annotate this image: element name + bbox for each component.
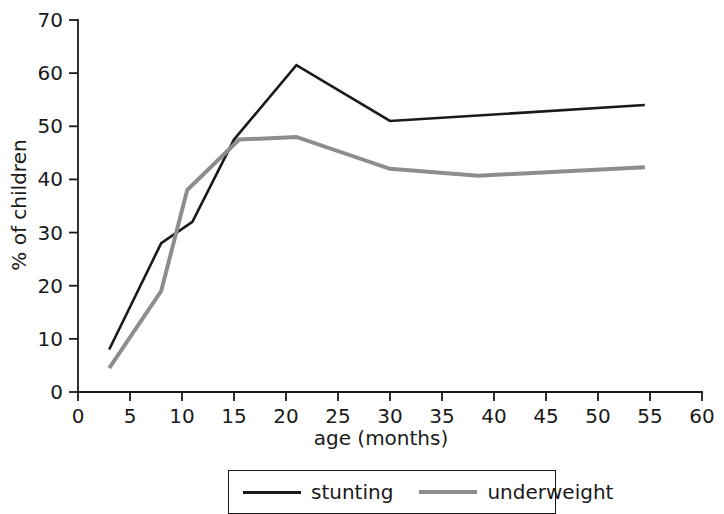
data-series-group (109, 65, 645, 368)
y-axis-tick-label: 0 (50, 380, 63, 404)
legend-label-stunting: stunting (311, 480, 393, 504)
x-axis-tick-label: 60 (689, 404, 714, 428)
x-axis-tick-label: 5 (124, 404, 137, 428)
y-axis-tick-labels: 010203040506070 (38, 8, 63, 404)
x-axis-tick-label: 45 (533, 404, 558, 428)
x-axis-tick-label: 10 (169, 404, 194, 428)
y-axis-title: % of children (7, 139, 31, 270)
x-axis-title: age (months) (314, 426, 449, 450)
y-axis-tick-label: 20 (38, 274, 63, 298)
series-line-stunting (109, 65, 645, 349)
x-axis-tick-label: 30 (377, 404, 402, 428)
x-axis-tick-label: 15 (221, 404, 246, 428)
x-axis-tick-label: 55 (637, 404, 662, 428)
y-axis-tick-label: 70 (38, 8, 63, 32)
legend-swatch-underweight (419, 490, 477, 494)
x-axis-tick-label: 20 (273, 404, 298, 428)
legend-item-underweight: underweight (419, 480, 613, 504)
x-axis-ticks (78, 392, 702, 401)
x-axis-tick-label: 40 (481, 404, 506, 428)
x-axis-tick-labels: 051015202530354045505560 (72, 404, 715, 428)
x-axis-tick-label: 25 (325, 404, 350, 428)
y-axis-tick-label: 40 (38, 167, 63, 191)
plot-area: 010203040506070 051015202530354045505560… (0, 0, 724, 466)
chart-legend: stunting underweight (228, 470, 556, 514)
series-line-underweight (109, 137, 645, 368)
legend-swatch-stunting (243, 491, 301, 494)
legend-item-stunting: stunting (243, 480, 393, 504)
y-axis-tick-label: 50 (38, 114, 63, 138)
x-axis-tick-label: 35 (429, 404, 454, 428)
y-axis-ticks (69, 20, 78, 392)
y-axis-tick-label: 60 (38, 61, 63, 85)
y-axis-tick-label: 30 (38, 221, 63, 245)
y-axis-tick-label: 10 (38, 327, 63, 351)
x-axis-tick-label: 50 (585, 404, 610, 428)
x-axis-tick-label: 0 (72, 404, 85, 428)
legend-label-underweight: underweight (487, 480, 613, 504)
